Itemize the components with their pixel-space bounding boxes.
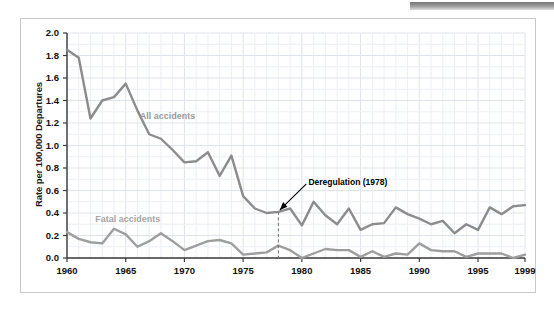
y-tick-label: 0.2 <box>33 230 59 241</box>
x-tick-label: 1985 <box>341 265 381 276</box>
y-tick-label: 1.6 <box>33 72 59 83</box>
y-tick-label: 0.4 <box>33 207 59 218</box>
y-tick-label: 2.0 <box>33 27 59 38</box>
x-tick-label: 1980 <box>282 265 322 276</box>
y-tick-label: 1.2 <box>33 117 59 128</box>
plot-area: Rate per 100,000 Departures 0.00.20.40.6… <box>20 18 536 293</box>
page-header-bar <box>410 2 554 10</box>
x-tick-label: 1965 <box>106 265 146 276</box>
x-tick-label: 1999 <box>505 265 545 276</box>
y-tick-label: 0.0 <box>33 252 59 263</box>
y-tick-label: 1.0 <box>33 140 59 151</box>
annotation-deregulation-label: Deregulation (1978) <box>308 177 387 187</box>
x-tick-label: 1975 <box>223 265 263 276</box>
y-tick-label: 1.4 <box>33 95 59 106</box>
chart-figure: Rate per 100,000 Departures 0.00.20.40.6… <box>0 0 554 311</box>
x-tick-label: 1990 <box>399 265 439 276</box>
y-tick-label: 0.6 <box>33 185 59 196</box>
series-label-all-accidents: All accidents <box>140 111 196 121</box>
series-label-fatal-accidents: Fatal accidents <box>95 214 160 224</box>
x-tick-label: 1995 <box>458 265 498 276</box>
series-line <box>67 50 525 233</box>
x-tick-label: 1960 <box>47 265 87 276</box>
y-tick-label: 0.8 <box>33 162 59 173</box>
y-tick-label: 1.8 <box>33 50 59 61</box>
x-tick-label: 1970 <box>164 265 204 276</box>
chart-canvas <box>21 19 535 292</box>
